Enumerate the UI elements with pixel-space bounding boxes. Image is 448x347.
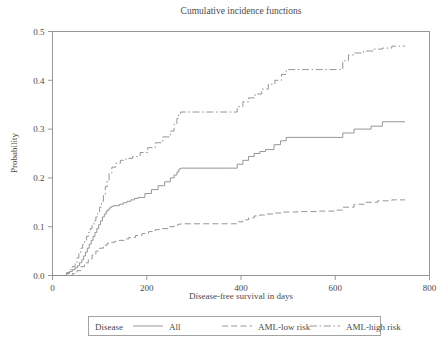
y-tick-label: 0.1: [33, 222, 44, 232]
chart-title: Cumulative incidence functions: [181, 6, 302, 16]
cumulative-incidence-chart: Cumulative incidence functions 020040060…: [0, 0, 448, 347]
y-tick-label: 0.2: [33, 173, 44, 183]
y-axis-label: Probability: [9, 133, 19, 173]
x-tick-label: 0: [50, 283, 55, 293]
legend-entries: AllAML-low riskAML-high risk: [133, 322, 401, 332]
x-tick-label: 200: [140, 283, 154, 293]
legend-label-aml-high-risk: AML-high risk: [346, 322, 401, 332]
x-axis-label: Disease-free survival in days: [189, 291, 294, 301]
y-tick-label: 0.0: [33, 271, 45, 281]
y-tick-label: 0.4: [33, 76, 45, 86]
legend-title: Disease: [95, 322, 123, 332]
x-tick-label: 800: [423, 283, 437, 293]
y-tick-label: 0.5: [33, 27, 45, 37]
y-tick-label: 0.3: [33, 124, 45, 134]
legend-label-all: All: [169, 322, 181, 332]
x-tick-label: 600: [329, 283, 343, 293]
legend-label-aml-low-risk: AML-low risk: [258, 322, 311, 332]
